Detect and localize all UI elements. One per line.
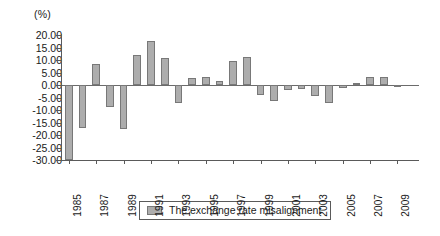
bar [175, 85, 183, 103]
x-tick-label: 1991 [155, 194, 165, 217]
x-tick-mark [233, 160, 234, 164]
y-tick-label: 15.00 [10, 43, 62, 54]
x-tick-label: 1999 [265, 194, 275, 217]
bar [229, 61, 237, 85]
x-tick-mark [178, 160, 179, 164]
chart-container: (%) 20.0015.0010.005.000.00-5.00-10.00-1… [0, 0, 440, 236]
y-tick-label: 5.00 [10, 68, 62, 79]
bar [120, 85, 128, 129]
x-tick-mark [151, 160, 152, 164]
y-tick-label: 20.00 [10, 30, 62, 41]
bar [366, 77, 374, 85]
bar [65, 85, 73, 160]
x-tick-mark [315, 160, 316, 164]
bar [284, 85, 292, 90]
x-tick-label: 1989 [128, 194, 138, 217]
y-axis-ticks: 20.0015.0010.005.000.00-5.00-10.00-15.00… [0, 0, 62, 236]
x-tick-mark [124, 160, 125, 164]
bar [339, 85, 347, 88]
x-tick-label: 2005 [347, 194, 357, 217]
x-tick-label: 1997 [237, 194, 247, 217]
bar [311, 85, 319, 96]
y-tick-label: -30.00 [10, 155, 62, 166]
x-tick-mark [397, 160, 398, 164]
bar [106, 85, 114, 107]
y-tick-label: -15.00 [10, 118, 62, 129]
x-tick-label: 1987 [100, 194, 110, 217]
bar [133, 55, 141, 86]
bar [92, 64, 100, 85]
y-tick-label: -10.00 [10, 105, 62, 116]
x-tick-mark [69, 160, 70, 164]
x-tick-label: 2007 [374, 194, 384, 217]
x-tick-label: 2003 [319, 194, 329, 217]
bar [243, 57, 251, 85]
y-tick-label: 0.00 [10, 80, 62, 91]
bar [394, 85, 402, 87]
bar [188, 78, 196, 85]
x-axis-line [61, 160, 419, 161]
bar [270, 85, 278, 101]
y-tick-label: -20.00 [10, 130, 62, 141]
bar [257, 85, 265, 95]
bar [353, 83, 361, 85]
x-tick-mark [288, 160, 289, 164]
y-tick-label: 10.00 [10, 55, 62, 66]
x-tick-mark [343, 160, 344, 164]
y-tick-label: -25.00 [10, 143, 62, 154]
bar [216, 81, 224, 85]
bar [325, 85, 333, 103]
bar [79, 85, 87, 128]
x-tick-mark [261, 160, 262, 164]
bar [147, 41, 155, 85]
bar [161, 58, 169, 85]
x-tick-label: 2009 [401, 194, 411, 217]
x-tick-label: 1995 [210, 194, 220, 217]
plot-area [62, 35, 418, 160]
bar [202, 77, 210, 85]
x-tick-label: 1993 [182, 194, 192, 217]
x-tick-mark [96, 160, 97, 164]
x-tick-label: 2001 [292, 194, 302, 217]
x-tick-mark [370, 160, 371, 164]
y-tick-label: -5.00 [10, 93, 62, 104]
bar [298, 85, 306, 89]
x-tick-label: 1985 [73, 194, 83, 217]
bar [380, 77, 388, 85]
x-tick-mark [206, 160, 207, 164]
